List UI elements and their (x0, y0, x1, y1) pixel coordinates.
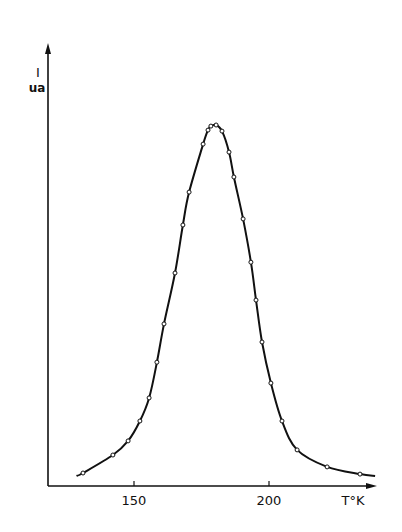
data-point-marker (81, 471, 85, 475)
data-point-marker (126, 439, 130, 443)
data-point-marker (232, 175, 236, 179)
data-point-marker (206, 128, 210, 132)
x-tick-label-150: 150 (122, 493, 147, 508)
data-point-marker (254, 298, 258, 302)
data-point-marker (249, 260, 253, 264)
data-point-marker (214, 123, 218, 127)
x-axis-arrow-icon (366, 483, 377, 489)
data-markers (81, 123, 362, 476)
data-point-marker (280, 419, 284, 423)
data-point-marker (201, 142, 205, 146)
data-point-marker (269, 381, 273, 385)
y-axis-arrow-icon (45, 43, 51, 54)
fitted-curve (77, 125, 376, 476)
data-point-marker (325, 465, 329, 469)
x-tick-label-200: 200 (257, 493, 282, 508)
data-point-marker (241, 217, 245, 221)
data-point-marker (220, 129, 224, 133)
data-point-marker (187, 190, 191, 194)
data-point-marker (358, 472, 362, 476)
data-point-marker (162, 322, 166, 326)
y-axis-symbol: I (36, 65, 40, 80)
y-axis-unit: ua (29, 81, 46, 95)
data-point-marker (173, 271, 177, 275)
data-point-marker (295, 448, 299, 452)
x-axis-label: T°K (341, 493, 365, 508)
chart: I ua 150 200 T°K (0, 0, 402, 532)
data-point-marker (260, 340, 264, 344)
data-point-marker (227, 150, 231, 154)
data-point-marker (147, 396, 151, 400)
data-point-marker (155, 360, 159, 364)
data-point-marker (138, 419, 142, 423)
data-point-marker (181, 223, 185, 227)
data-point-marker (209, 124, 213, 128)
data-point-marker (111, 453, 115, 457)
